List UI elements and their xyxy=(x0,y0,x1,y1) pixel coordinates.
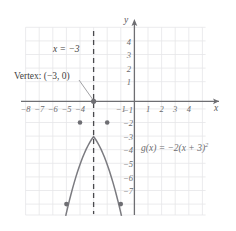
x-tick-label: −4 xyxy=(75,104,85,114)
point-left-inner xyxy=(78,120,83,125)
point-vertex xyxy=(91,99,96,104)
grid-lines xyxy=(26,27,206,215)
x-tick-label: −8 xyxy=(21,104,31,114)
x-tick-label: −5 xyxy=(61,104,71,114)
x-tick-label: 1 xyxy=(144,104,153,114)
y-tick-label: −3 xyxy=(119,132,133,142)
y-tick-label: −1 xyxy=(119,105,133,115)
y-tick-label: −6 xyxy=(119,173,133,183)
x-tick-label: 3 xyxy=(171,104,180,114)
x-tick-label: −7 xyxy=(34,104,44,114)
y-tick-label: −7 xyxy=(119,186,133,196)
vertex-leader-line xyxy=(79,80,93,100)
y-axis-label: y xyxy=(124,15,128,25)
point-right-outer xyxy=(119,202,124,207)
function-label: g(x) = −2(x + 3)2 xyxy=(141,141,208,153)
function-exponent: 2 xyxy=(205,141,208,148)
axis-of-symmetry-label: x = −3 xyxy=(53,44,80,54)
y-tick-label: −2 xyxy=(119,118,133,128)
point-left-outer xyxy=(64,202,69,207)
y-tick-label: 1 xyxy=(117,77,131,87)
x-tick-label: 2 xyxy=(157,104,166,114)
y-tick-label: −5 xyxy=(119,159,133,169)
vertex-label: Vertex: (−3, 0) xyxy=(14,71,70,81)
function-expression: g(x) = −2(x + 3) xyxy=(141,143,205,153)
y-tick-label: −4 xyxy=(119,145,133,155)
graph-canvas xyxy=(0,0,236,231)
y-tick-label: 2 xyxy=(117,64,131,74)
x-tick-label: −6 xyxy=(48,104,58,114)
y-tick-label: 3 xyxy=(117,50,131,60)
y-tick-label: 4 xyxy=(117,37,131,47)
point-right-inner xyxy=(105,120,110,125)
graph-figure: −8 −7 −6 −5 −4 −1 1 2 3 4 4 3 2 1 −1 −2 … xyxy=(0,0,236,231)
x-axis-label: x xyxy=(214,103,218,113)
x-tick-label: 4 xyxy=(184,104,193,114)
